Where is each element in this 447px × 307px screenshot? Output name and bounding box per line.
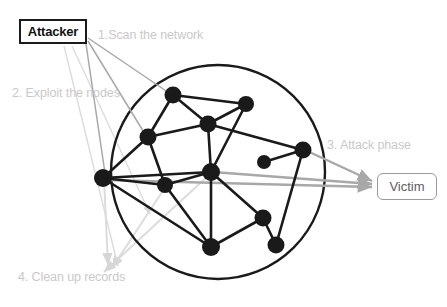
cleanup-arrow [112, 186, 166, 268]
network-node[interactable] [255, 210, 272, 227]
step-label-cleanup: 4. Clean up records [18, 270, 125, 284]
network-edge [103, 137, 148, 178]
network-node[interactable] [238, 96, 254, 112]
network-node[interactable] [268, 237, 285, 254]
network-node[interactable] [94, 169, 112, 187]
scan-arrow-group [86, 38, 175, 180]
attacker-node-box[interactable]: Attacker [19, 19, 87, 44]
victim-label: Victim [389, 179, 424, 194]
network-node[interactable] [200, 116, 217, 133]
network-node[interactable] [202, 163, 220, 181]
step-label-attack: 3. Attack phase [327, 138, 411, 152]
network-edge [276, 150, 303, 245]
network-node[interactable] [157, 177, 173, 193]
network-node[interactable] [165, 87, 182, 104]
network-attack-diagram [0, 0, 447, 307]
network-node[interactable] [140, 129, 157, 146]
step-label-exploit: 2. Exploit the nodes [12, 86, 120, 100]
network-edge [211, 172, 263, 218]
victim-node-box[interactable]: Victim [377, 173, 437, 200]
step-label-scan: 1.Scan the network [98, 28, 203, 42]
attack-arrow [305, 150, 372, 181]
network-node[interactable] [257, 155, 271, 169]
network-node[interactable] [202, 238, 220, 256]
attacker-label: Attacker [28, 24, 78, 39]
network-edge [208, 124, 303, 150]
network-edge [148, 124, 208, 137]
network-node[interactable] [295, 142, 312, 159]
diagram-canvas: Attacker Victim 1.Scan the network 2. Ex… [0, 0, 447, 307]
exploit-arrow [72, 46, 150, 214]
